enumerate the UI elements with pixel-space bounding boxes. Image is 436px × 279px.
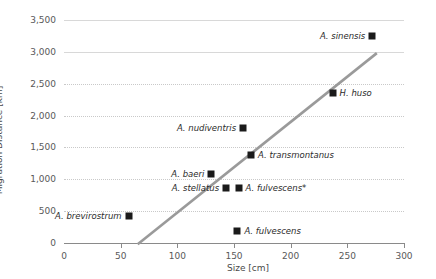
y-tick-label: 0 (0, 239, 56, 248)
y-tick-label: 500 (0, 207, 56, 216)
scatter-chart: Migration Distance [km] Size [cm] 05001,… (0, 0, 436, 279)
y-tick-label: 3,500 (0, 16, 56, 25)
data-point-marker (208, 170, 215, 177)
data-point-marker (248, 152, 255, 159)
plot-area: 05001,0001,5002,0002,5003,0003,500 05010… (64, 20, 404, 243)
x-tick-mark (404, 243, 405, 248)
x-tick-label: 50 (101, 252, 141, 261)
data-point-marker (125, 213, 132, 220)
data-point-label: A. sinensis (320, 32, 365, 41)
data-point-marker (234, 228, 241, 235)
x-tick-label: 300 (384, 252, 424, 261)
x-tick-mark (234, 243, 235, 248)
x-tick-mark (177, 243, 178, 248)
y-tick-label: 3,000 (0, 47, 56, 56)
y-tick-label: 2,500 (0, 79, 56, 88)
x-tick-label: 100 (157, 252, 197, 261)
x-axis-title: Size [cm] (0, 263, 436, 273)
x-tick-label: 150 (214, 252, 254, 261)
data-point-label: A. brevirostrum (55, 212, 122, 221)
data-point-marker (240, 124, 247, 131)
data-point-label: A. fulvescens* (246, 183, 307, 192)
data-point-marker (369, 32, 376, 39)
data-point-label: A. stellatus (172, 183, 219, 192)
data-point-label: A. fulvescens (244, 227, 301, 236)
y-tick-label: 1,000 (0, 175, 56, 184)
y-tick-label: 2,000 (0, 111, 56, 120)
x-tick-mark (291, 243, 292, 248)
data-point-marker (235, 184, 242, 191)
data-point-marker (223, 184, 230, 191)
y-tick-label: 1,500 (0, 143, 56, 152)
x-tick-mark (347, 243, 348, 248)
x-tick-mark (121, 243, 122, 248)
x-tick-label: 250 (327, 252, 367, 261)
x-tick-label: 200 (271, 252, 311, 261)
data-point-label: A. transmontanus (258, 151, 334, 160)
data-point-label: A. nudiventris (177, 123, 236, 132)
data-point-label: A. baeri (171, 169, 204, 178)
data-point-marker (329, 89, 336, 96)
data-point-label: H. huso (340, 88, 372, 97)
x-tick-label: 0 (44, 252, 84, 261)
